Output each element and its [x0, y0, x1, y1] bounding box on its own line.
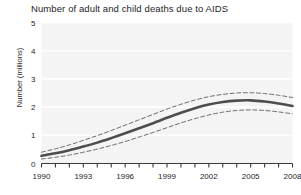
y-tick-label: 2	[31, 103, 36, 112]
y-tick-labels-group: 012345	[31, 19, 36, 169]
y-tick-label: 3	[31, 75, 36, 84]
chart-figure: Number of adult and child deaths due to …	[0, 0, 301, 195]
x-tick-labels-group: 1990199319961999200220052008	[33, 172, 301, 181]
x-tick-label: 1993	[74, 172, 92, 181]
y-tick-label: 5	[31, 19, 36, 28]
y-tick-label: 1	[31, 131, 36, 140]
chart-plot-area: 012345 1990199319961999200220052008	[0, 0, 301, 195]
x-tick-label: 2005	[242, 172, 260, 181]
x-tick-label: 2008	[284, 172, 301, 181]
y-tick-label: 4	[31, 47, 36, 56]
x-tick-label: 1996	[116, 172, 134, 181]
x-tick-label: 2002	[200, 172, 218, 181]
plot-background	[42, 23, 293, 164]
plot-background-group	[42, 23, 293, 164]
x-tick-label: 1999	[158, 172, 176, 181]
x-tick-marks-group	[42, 164, 293, 168]
x-tick-label: 1990	[33, 172, 51, 181]
y-tick-label: 0	[31, 160, 36, 169]
